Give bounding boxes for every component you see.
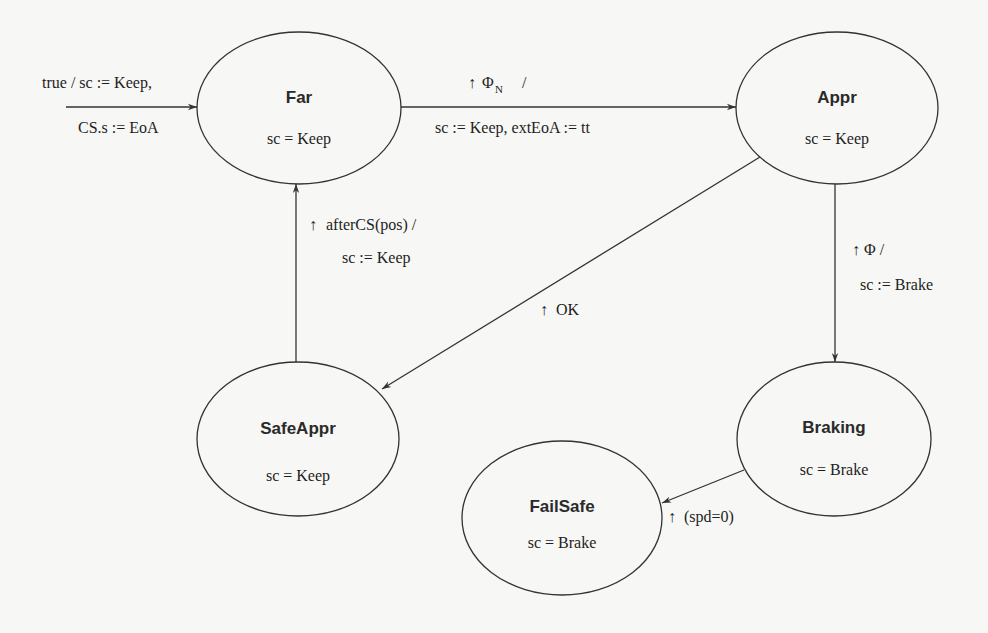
- appr-safeappr-label: OK: [556, 301, 580, 318]
- state-braking: Braking sc = Brake: [737, 362, 931, 516]
- init-label-line2: CS.s := EoA: [78, 119, 159, 136]
- state-far-invariant: sc = Keep: [267, 130, 331, 148]
- state-far: Far sc = Keep: [197, 32, 401, 184]
- init-label-line1: true / sc := Keep,: [42, 74, 152, 92]
- state-machine-diagram: Far sc = Keep Appr sc = Keep SafeAppr sc…: [0, 0, 988, 633]
- transition-braking-failsafe: ↑ (spd=0): [662, 470, 744, 526]
- braking-failsafe-trigger-icon: ↑: [668, 508, 676, 525]
- far-appr-label-slash: /: [522, 74, 527, 91]
- transition-init: true / sc := Keep, CS.s := EoA: [42, 74, 197, 136]
- appr-braking-label-line1: Φ /: [864, 241, 885, 258]
- state-safeappr-invariant: sc = Keep: [266, 467, 330, 485]
- state-safeappr: SafeAppr sc = Keep: [197, 362, 399, 516]
- state-braking-ellipse: [737, 362, 931, 516]
- state-safeappr-name: SafeAppr: [260, 419, 336, 438]
- transition-far-appr: ↑ Φ N / sc := Keep, extEoA := tt: [401, 74, 736, 137]
- state-far-ellipse: [197, 32, 401, 184]
- state-appr-ellipse: [736, 32, 938, 184]
- state-failsafe: FailSafe sc = Brake: [462, 441, 662, 595]
- state-appr-name: Appr: [817, 88, 857, 107]
- braking-failsafe-arrow: [662, 470, 744, 503]
- safeappr-far-trigger-icon: ↑: [309, 216, 317, 233]
- far-appr-label-phi: Φ: [482, 74, 494, 91]
- safeappr-far-label-line1: afterCS(pos) /: [326, 216, 417, 234]
- state-braking-name: Braking: [802, 418, 865, 437]
- state-far-name: Far: [286, 88, 313, 107]
- state-braking-invariant: sc = Brake: [800, 461, 869, 478]
- state-failsafe-ellipse: [462, 441, 662, 595]
- appr-braking-trigger-icon: ↑: [852, 241, 860, 258]
- state-failsafe-name: FailSafe: [529, 497, 594, 516]
- appr-safeappr-arrow: [382, 157, 760, 389]
- appr-safeappr-trigger-icon: ↑: [540, 301, 548, 318]
- state-failsafe-invariant: sc = Brake: [528, 534, 597, 551]
- far-appr-label-sub: N: [495, 83, 503, 95]
- braking-failsafe-label: (spd=0): [684, 508, 734, 526]
- safeappr-far-label-line2: sc := Keep: [342, 249, 411, 267]
- appr-braking-label-line2: sc := Brake: [860, 276, 933, 293]
- transition-safeappr-far: ↑ afterCS(pos) / sc := Keep: [296, 184, 417, 362]
- transition-appr-braking: ↑ Φ / sc := Brake: [835, 184, 933, 362]
- far-appr-label-line2: sc := Keep, extEoA := tt: [435, 119, 590, 137]
- state-appr: Appr sc = Keep: [736, 32, 938, 184]
- far-appr-trigger-icon: ↑: [468, 74, 476, 91]
- diagram-svg: Far sc = Keep Appr sc = Keep SafeAppr sc…: [0, 0, 988, 633]
- state-appr-invariant: sc = Keep: [805, 130, 869, 148]
- state-safeappr-ellipse: [197, 362, 399, 516]
- transition-appr-safeappr: ↑ OK: [382, 157, 760, 389]
